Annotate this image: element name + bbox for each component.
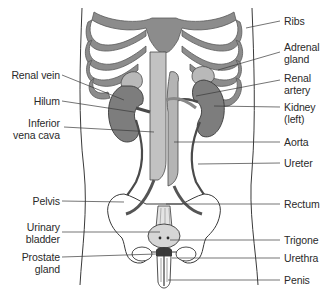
label-pelvis: Pelvis (33, 195, 60, 207)
label-ureter: Ureter (284, 157, 313, 169)
label-hilum: Hilum (34, 95, 60, 107)
inferior-vena-cava-icon (150, 52, 166, 180)
label-prostate-gland: Prostate gland (22, 251, 60, 275)
label-trigone: Trigone (284, 234, 319, 246)
urinary-system-diagram: Renal vein Hilum Inferior vena cava Pelv… (0, 0, 328, 295)
label-aorta: Aorta (284, 136, 309, 148)
body-outline-right (251, 8, 258, 285)
label-urethra: Urethra (284, 252, 318, 264)
label-inferior-vena-cava: Inferior vena cava (13, 117, 60, 141)
aorta-icon (167, 72, 178, 186)
kidney-right-icon (109, 86, 144, 142)
renal-vein-icon (136, 108, 150, 112)
label-kidney-left: Kidney (left) (284, 101, 316, 125)
trigone-icon (159, 237, 162, 240)
label-adrenal-gland: Adrenal gland (284, 41, 320, 65)
label-ribs: Ribs (284, 15, 305, 27)
label-renal-artery: Renal artery (284, 72, 311, 96)
label-rectum: Rectum (284, 198, 320, 210)
body-outline-left (80, 8, 85, 285)
label-penis: Penis (284, 274, 310, 286)
label-urinary-bladder: Urinary bladder (26, 221, 60, 245)
label-renal-vein: Renal vein (11, 69, 60, 81)
urinary-bladder-icon (148, 224, 180, 248)
